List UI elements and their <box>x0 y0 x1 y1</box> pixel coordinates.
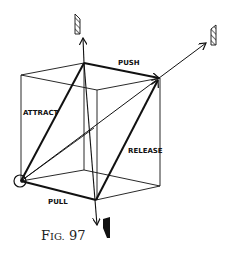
down-arrow <box>84 63 97 225</box>
push-label: PUSH <box>118 59 140 67</box>
hatched-block-top <box>75 14 80 34</box>
attract-arrow <box>21 63 84 181</box>
attract-label: ATTRACT <box>23 109 59 117</box>
release-label: RELEASE <box>128 147 163 155</box>
force-cube-diagram: PUSH ATTRACT RELEASE PULL <box>0 0 231 256</box>
cube-edges <box>21 63 160 200</box>
figure-caption: FIG. 97 <box>41 228 85 243</box>
force-arrows <box>21 38 206 225</box>
hatched-block-right <box>211 25 216 45</box>
release-arrow <box>96 80 158 200</box>
solid-block-bottom <box>103 217 110 238</box>
pull-label: PULL <box>48 198 68 206</box>
up-arrow <box>83 38 84 63</box>
